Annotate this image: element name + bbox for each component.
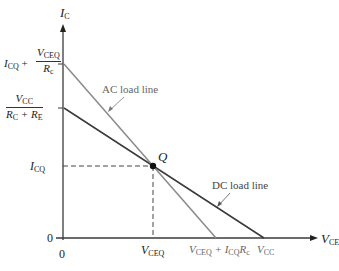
y-origin-label: 0 <box>47 232 53 244</box>
ac-y-intercept-fraction: VCEQ Rc <box>36 47 61 76</box>
dc-y-intercept-fraction: VCC RC + RE <box>6 93 43 122</box>
icq-label: ICQ <box>30 160 45 174</box>
ac-x-intercept-label: VCEQ + ICQRc <box>189 244 250 257</box>
ac-y-intercept-prefix: ICQ + <box>4 58 28 71</box>
vcc-label: VCC <box>257 244 274 257</box>
x-axis-arrow-icon <box>310 235 318 241</box>
q-point-marker <box>150 163 156 169</box>
y-axis-arrow-icon <box>60 24 66 32</box>
vceq-label: VCEQ <box>141 244 164 258</box>
x-axis-label: VCE <box>321 232 339 247</box>
dc-load-line <box>64 108 264 238</box>
ac-load-line-label: AC load line <box>102 84 158 95</box>
dc-load-line-label: DC load line <box>212 180 268 191</box>
q-point-label: Q <box>158 150 167 163</box>
y-axis-label: IC <box>60 6 70 21</box>
x-origin-label: 0 <box>59 248 65 260</box>
